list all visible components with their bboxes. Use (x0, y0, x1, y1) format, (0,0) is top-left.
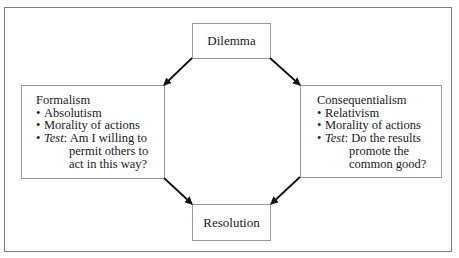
formalism-test-line-3: act in this way? (36, 158, 148, 171)
node-resolution: Resolution (192, 204, 271, 241)
consequentialism-test-line-3: common good? (317, 158, 426, 171)
consequentialism-test-label: Test (325, 131, 345, 145)
consequentialism-test: •Test: Do the results (317, 132, 426, 145)
node-dilemma: Dilemma (192, 23, 271, 59)
formalism-test-line-2: permit others to (36, 145, 148, 158)
bullet-icon: • (36, 132, 44, 145)
node-resolution-label: Resolution (203, 215, 259, 231)
node-formalism: Formalism •Absolutism •Morality of actio… (21, 85, 165, 179)
consequentialism-test-line-1: Do the results (351, 131, 420, 145)
consequentialism-test-line-2: promote the (317, 145, 426, 158)
formalism-test-line-1: Am I willing to (70, 131, 147, 145)
node-consequentialism: Consequentialism •Relativism •Morality o… (300, 85, 442, 178)
formalism-test-label: Test (44, 131, 64, 145)
node-dilemma-label: Dilemma (207, 33, 255, 49)
bullet-icon: • (317, 132, 325, 145)
formalism-test: •Test: Am I willing to (36, 132, 148, 145)
